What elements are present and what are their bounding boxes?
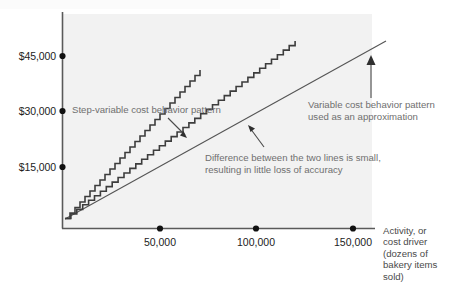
y-tick-label-45000: $45,000	[2, 50, 56, 62]
x-tick-label-150000: 150,000	[318, 236, 388, 248]
variable-cost-approximation-line	[65, 41, 386, 219]
variable-approx-annotation-arrow-head	[367, 55, 376, 65]
x-axis-caption: Activity, or cost driver (dozens of bake…	[383, 225, 461, 282]
y-tick-label-15000: $15,000	[2, 161, 56, 173]
y-tick-dot-15000	[59, 164, 65, 170]
x-tick-label-100000: 100,000	[221, 236, 291, 248]
x-tick-dot-100000	[253, 225, 259, 231]
y-tick-dot-45000	[59, 53, 65, 59]
difference-annotation-arrow-shaft	[250, 128, 264, 147]
annotation-difference: Difference between the two lines is smal…	[205, 152, 381, 175]
step-variable-cost-line	[65, 70, 200, 219]
y-tick-dot-30000	[59, 108, 65, 114]
x-tick-dot-50000	[157, 225, 163, 231]
difference-annotation-arrow-head	[248, 125, 255, 132]
annotation-variable-approximation: Variable cost behavior pattern used as a…	[308, 99, 435, 122]
y-tick-label-30000: $30,000	[2, 105, 56, 117]
x-tick-label-50000: 50,000	[125, 236, 195, 248]
step-variable-cost-chart: $45,000 $30,000 $15,000 50,000 100,000 1…	[0, 0, 461, 292]
annotation-step-variable: Step-variable cost behavior pattern	[72, 104, 221, 116]
x-tick-dot-150000	[350, 225, 356, 231]
